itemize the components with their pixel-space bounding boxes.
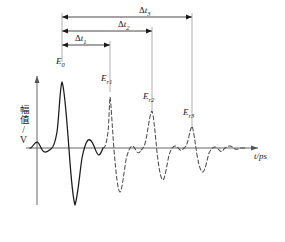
peak-label-e0: E0 bbox=[56, 57, 65, 68]
peak-label-er1: Er1 bbox=[101, 74, 112, 85]
incident-pulse-trace bbox=[30, 82, 103, 205]
peak-subscript-r1: r1 bbox=[107, 78, 113, 85]
peak-label-er2: Er2 bbox=[143, 92, 154, 103]
x-axis-label: t/ps bbox=[254, 152, 267, 161]
peak-subscript-0: 0 bbox=[62, 61, 65, 68]
peak-label-er3: Er3 bbox=[183, 108, 194, 119]
thz-waveform-figure: Δt3 Δt2 Δt1 E0 Er1 Er2 Er3 幅值/V t/ps bbox=[0, 0, 285, 242]
interval-subscript-2: 2 bbox=[126, 24, 129, 31]
reflection-2-trace bbox=[141, 111, 183, 180]
interval-label-dt2: Δt2 bbox=[118, 20, 130, 31]
axes bbox=[26, 76, 258, 205]
peak-subscript-r2: r2 bbox=[149, 96, 155, 103]
reflection-1-trace bbox=[103, 97, 141, 192]
y-axis-label: 幅值/V bbox=[18, 105, 28, 145]
interval-subscript-3: 3 bbox=[147, 10, 150, 17]
interval-label-dt1: Δt1 bbox=[75, 34, 87, 45]
interval-label-dt3: Δt3 bbox=[139, 6, 151, 17]
interval-subscript-1: 1 bbox=[83, 38, 86, 45]
figure-canvas bbox=[0, 0, 285, 242]
reflection-3-trace bbox=[183, 126, 247, 172]
peak-subscript-r3: r3 bbox=[189, 112, 195, 119]
